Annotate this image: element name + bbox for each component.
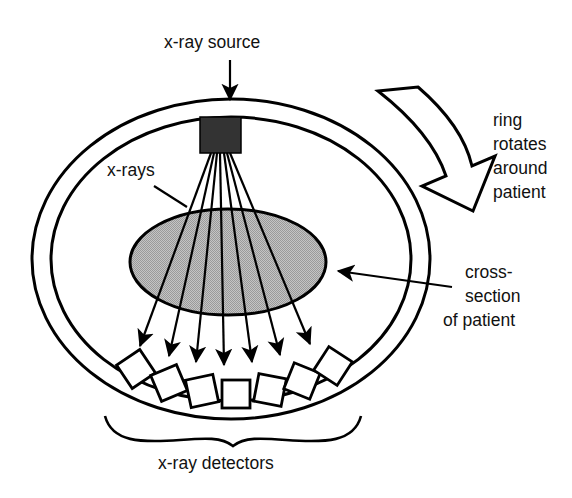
ct-scanner-diagram: x-ray source x-rays ring rotates around …: [0, 0, 572, 498]
detector-box: [314, 347, 353, 386]
x-ray-source-block: [200, 117, 241, 153]
ring-rotation-line-1: ring: [493, 110, 522, 130]
x-rays-label: x-rays: [107, 160, 155, 180]
ring-rotation-line-4: patient: [493, 182, 546, 202]
ring-rotation-label: ring rotates around patient: [493, 110, 548, 202]
detector-box: [117, 350, 156, 389]
ct-scanner-illustration: x-ray source x-rays ring rotates around …: [0, 0, 572, 498]
detectors-brace: [105, 416, 361, 446]
cross-section-line-3: of patient: [443, 310, 515, 330]
ring-rotation-line-3: around: [493, 158, 548, 178]
ring-rotation-arrow: [378, 87, 495, 211]
x-ray-source-label: x-ray source: [164, 32, 260, 52]
cross-section-line-2: section: [465, 286, 520, 306]
detector-box: [185, 374, 218, 407]
detector-box: [254, 374, 287, 407]
patient-cross-section: [130, 209, 326, 315]
detector-box: [222, 380, 250, 408]
x-ray-detectors-label: x-ray detectors: [158, 453, 274, 473]
x-ray-detector-array: [117, 347, 353, 408]
cross-section-line-1: cross-: [465, 262, 513, 282]
cross-section-label: cross- section of patient: [443, 262, 520, 330]
ring-rotation-line-2: rotates: [493, 134, 547, 154]
cross-section-leader-arrow: [338, 271, 452, 287]
x-rays-leader-line: [154, 186, 187, 207]
